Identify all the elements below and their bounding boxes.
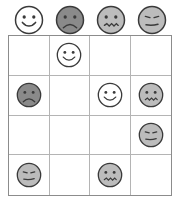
- grid-cell-r4c1[interactable]: [9, 155, 50, 195]
- happy-face-icon: [14, 5, 44, 35]
- grid-cell-r3c4[interactable]: [131, 116, 172, 156]
- grid-cell-r2c3[interactable]: [90, 76, 131, 116]
- confused-face-icon: [96, 5, 126, 35]
- legend-face-4[interactable]: [131, 5, 172, 35]
- sad-face-icon: [55, 5, 85, 35]
- grid-cell-r4c2-empty[interactable]: [50, 155, 91, 195]
- grid-cell-r4c3[interactable]: [90, 155, 131, 195]
- confused-face-icon: [138, 82, 164, 108]
- legend-face-2[interactable]: [49, 5, 90, 35]
- sad-face-icon: [16, 82, 42, 108]
- grid-cell-r3c3-empty[interactable]: [90, 116, 131, 156]
- neutral-face-icon: [138, 122, 164, 148]
- grid-cell-r1c3-empty[interactable]: [90, 36, 131, 76]
- happy-face-icon: [56, 42, 82, 68]
- grid-cell-r2c2-empty[interactable]: [50, 76, 91, 116]
- neutral-face-icon: [16, 162, 42, 188]
- confused-face-icon: [97, 162, 123, 188]
- grid-cell-r3c2-empty[interactable]: [50, 116, 91, 156]
- grid-cell-r1c1-empty[interactable]: [9, 36, 50, 76]
- grid-cell-r2c1[interactable]: [9, 76, 50, 116]
- grid-cell-r3c1-empty[interactable]: [9, 116, 50, 156]
- grid-cell-r2c4[interactable]: [131, 76, 172, 116]
- legend-face-3[interactable]: [90, 5, 131, 35]
- face-placement-grid: [8, 35, 172, 196]
- neutral-face-icon: [137, 5, 167, 35]
- face-grid-puzzle: [0, 0, 181, 207]
- grid-cell-r1c4-empty[interactable]: [131, 36, 172, 76]
- legend-face-1[interactable]: [8, 5, 49, 35]
- grid-cell-r4c4-empty[interactable]: [131, 155, 172, 195]
- happy-face-icon: [97, 82, 123, 108]
- grid-cell-r1c2[interactable]: [50, 36, 91, 76]
- face-legend-row: [8, 5, 172, 35]
